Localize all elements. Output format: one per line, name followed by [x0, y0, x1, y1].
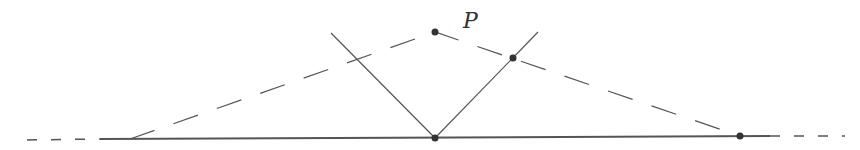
- point-p-label: P: [463, 8, 478, 33]
- v-line-right: [435, 32, 538, 138]
- point-p-dot: [432, 29, 439, 36]
- baseline-point-dot: [737, 133, 744, 140]
- intersection-dot: [510, 55, 517, 62]
- dashed-path: [130, 32, 740, 139]
- geometry-diagram: [0, 0, 860, 150]
- vertex-dot: [432, 135, 439, 142]
- v-line-left: [331, 33, 435, 138]
- baseline-dashed-left: [27, 139, 100, 140]
